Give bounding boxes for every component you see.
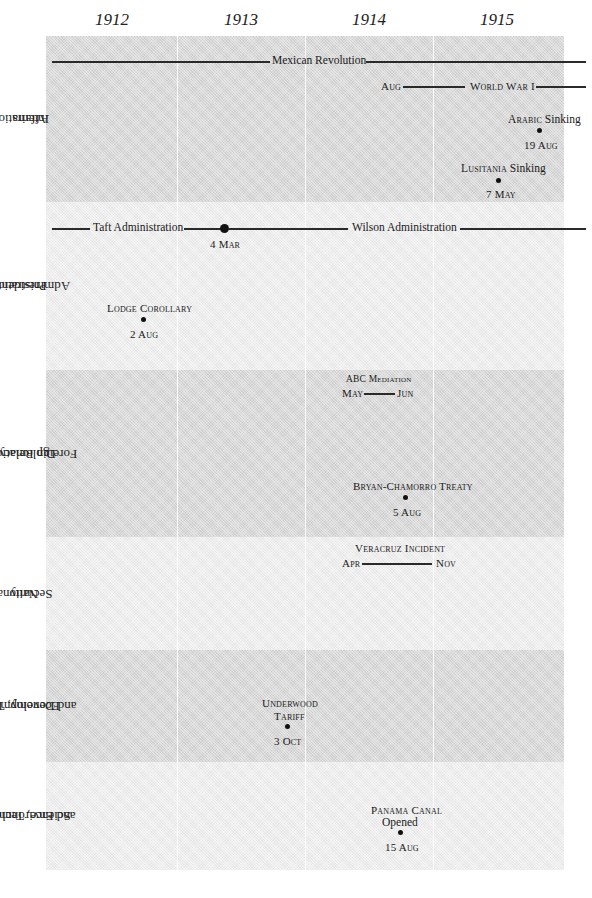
- label-panama-canal-l1: Panama Canal: [371, 804, 442, 816]
- label-underwood-date: 3 Oct: [274, 735, 301, 747]
- category-national-security: NationalSecurity: [0, 537, 46, 650]
- year-header-1914: 1914: [304, 10, 434, 30]
- event-dot-lodge-corollary: [141, 317, 146, 322]
- year-divider: [433, 36, 434, 870]
- label-world-war-i: World War I: [470, 80, 535, 92]
- span-line-wwi: [536, 86, 586, 88]
- year-header-1913: 1913: [176, 10, 306, 30]
- label-arabic-date: 19 Aug: [524, 139, 558, 151]
- label-veracruz-end: Nov: [436, 557, 456, 569]
- event-dot-underwood-tariff: [285, 724, 290, 729]
- category-science-technology-environment: Science, Technology,and Environment: [0, 762, 46, 870]
- span-line-abc-mediation: [364, 393, 395, 395]
- label-underwood-tariff-l2: Tariff: [274, 710, 305, 722]
- label-abc-mediation: ABC Mediation: [346, 374, 412, 384]
- span-line-wwi: [403, 86, 465, 88]
- span-line-wilson: [460, 228, 586, 230]
- span-line-mexican-revolution: [52, 61, 270, 63]
- label-wwi-start: Aug: [381, 80, 401, 92]
- span-line-taft: [184, 228, 224, 230]
- label-panama-date: 15 Aug: [385, 841, 419, 853]
- year-divider: [177, 36, 178, 870]
- year-divider: [305, 36, 306, 870]
- event-dot-panama-canal: [398, 830, 403, 835]
- category-international-affairs: InternationalAffairs: [0, 36, 46, 202]
- label-bryan-date: 5 Aug: [393, 506, 421, 518]
- label-wilson-administration: Wilson Administration: [352, 221, 457, 233]
- span-line-veracruz: [362, 563, 432, 565]
- label-underwood-tariff-l1: Underwood: [262, 697, 318, 709]
- category-presidential-administration: PresidentialAdministration: [0, 202, 46, 370]
- label-lusitania-sinking: Lusitania Sinking: [461, 162, 546, 174]
- year-header-1915: 1915: [432, 10, 562, 30]
- event-dot-arabic-sinking: [537, 128, 542, 133]
- year-header-1912: 1912: [47, 10, 177, 30]
- event-dot-bryan-chamorro: [403, 495, 408, 500]
- label-lusitania-date: 7 May: [486, 188, 516, 200]
- span-line-wilson: [228, 228, 348, 230]
- label-abc-end: Jun: [397, 387, 413, 399]
- label-lodge-date: 2 Aug: [130, 328, 158, 340]
- label-inauguration-date: 4 Mar: [210, 238, 240, 250]
- label-panama-canal-l2: Opened: [382, 816, 418, 828]
- span-line-mexican-revolution: [366, 61, 586, 63]
- label-abc-start: May: [342, 387, 363, 399]
- event-dot-lusitania-sinking: [496, 178, 501, 183]
- category-economy-trade-development: Economy, Trade,and Development: [0, 650, 46, 762]
- label-bryan-chamorro-treaty: Bryan-Chamorro Treaty: [353, 480, 473, 492]
- label-arabic-sinking: Arabic Sinking: [508, 113, 581, 125]
- category-diplomacy-foreign-relations: Diplomacy andForeign Relations: [0, 370, 46, 537]
- label-taft-administration: Taft Administration: [93, 221, 183, 233]
- label-lodge-corollary: Lodge Corollary: [107, 302, 192, 314]
- label-veracruz-start: Apr: [342, 557, 360, 569]
- label-veracruz-incident: Veracruz Incident: [355, 542, 445, 554]
- span-line-taft: [52, 228, 90, 230]
- label-mexican-revolution: Mexican Revolution: [272, 54, 366, 66]
